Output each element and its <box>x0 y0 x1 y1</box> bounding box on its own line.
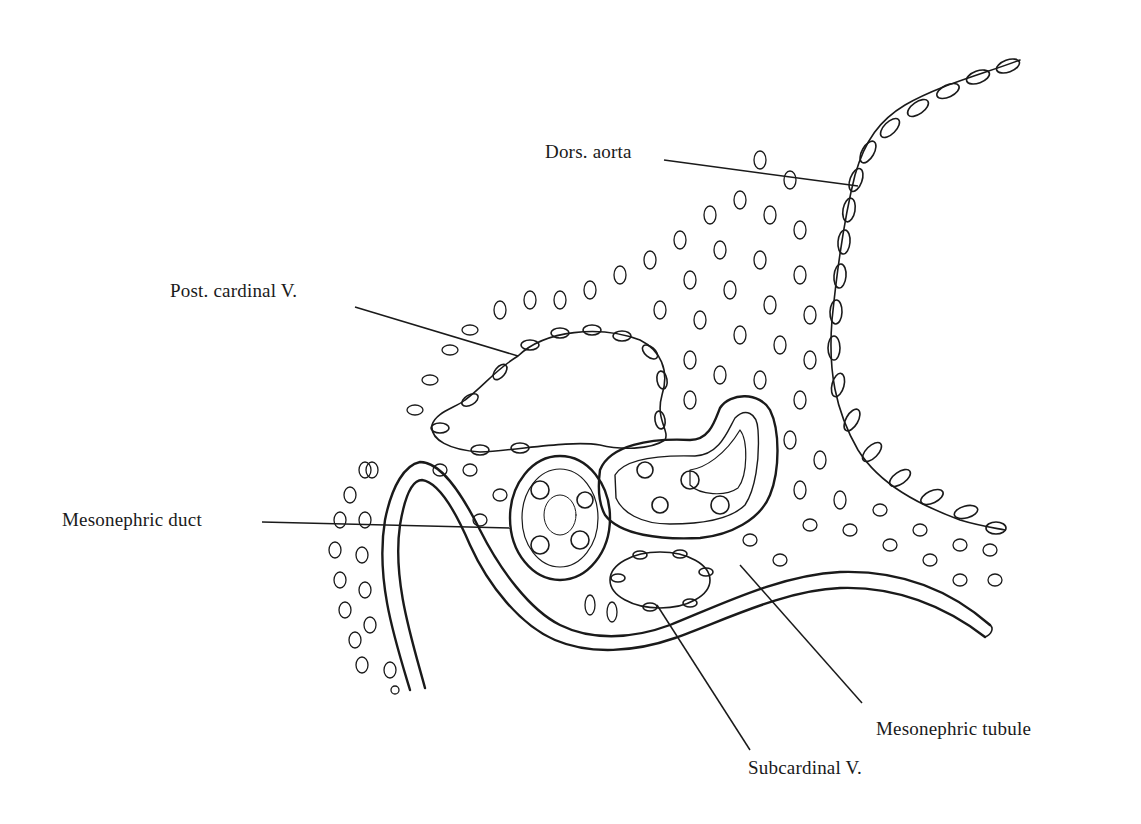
coelomic-epithelium <box>382 462 992 690</box>
embryo-cross-section-drawing <box>0 0 1141 824</box>
label-subcardinal-v: Subcardinal V. <box>748 758 862 777</box>
aorta-wall-cells <box>828 56 1021 534</box>
label-post-cardinal-v: Post. cardinal V. <box>170 281 297 300</box>
leader-line-mesonephric-duct <box>262 522 510 528</box>
cardinal-vein-wall-cells <box>431 325 668 455</box>
leader-line-dors-aorta <box>664 160 858 186</box>
label-mesonephric-duct: Mesonephric duct <box>62 510 202 529</box>
posterior-cardinal-vein <box>432 332 666 452</box>
leader-line-mesonephric-tubule <box>740 565 862 703</box>
mesonephric-duct <box>510 456 610 580</box>
subcardinal-vein <box>610 550 713 611</box>
dorsal-aorta-wall <box>831 60 1020 530</box>
mesonephric-tubule <box>599 396 778 538</box>
leader-line-post-cardinal-v <box>355 307 518 356</box>
label-mesonephric-tubule: Mesonephric tubule <box>876 719 1031 738</box>
label-dors-aorta: Dors. aorta <box>545 142 632 161</box>
